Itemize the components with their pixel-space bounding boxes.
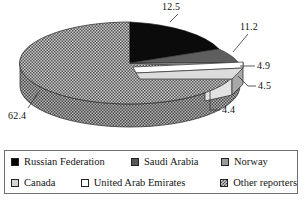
legend-label-uae: United Arab Emirates: [94, 177, 186, 188]
legend-item-russian-federation[interactable]: Russian Federation: [11, 156, 131, 167]
solid-black-swatch-icon: [11, 158, 19, 166]
legend-item-other-reporters[interactable]: Other reporters: [220, 177, 297, 188]
legend-label-saudi-arabia: Saudi Arabia: [144, 156, 199, 167]
legend-label-other-reporters: Other reporters: [233, 177, 297, 188]
value-label-canada: 4.5: [258, 80, 271, 91]
chart-legend: Russian Federation Saudi Arabia Norway C…: [4, 150, 298, 194]
white-swatch-icon: [81, 179, 89, 187]
legend-label-russian-federation: Russian Federation: [24, 156, 105, 167]
legend-item-saudi-arabia[interactable]: Saudi Arabia: [131, 156, 221, 167]
legend-item-norway[interactable]: Norway: [221, 156, 268, 167]
leader-line-saudi-arabia: [233, 34, 248, 52]
dotted-pattern-swatch-icon: [220, 179, 228, 187]
light-gray-swatch-icon: [11, 179, 19, 187]
value-label-russian-federation: 12.5: [162, 1, 180, 12]
pie-chart-graphic: [0, 0, 305, 148]
legend-item-uae[interactable]: United Arab Emirates: [81, 177, 220, 188]
leader-line-russian-federation: [170, 14, 178, 22]
dark-gray-swatch-icon: [131, 158, 139, 166]
legend-label-canada: Canada: [24, 177, 56, 188]
pie-chart-area: 12.5 11.2 4.9 4.5 4.4 62.4: [0, 0, 305, 148]
legend-label-norway: Norway: [234, 156, 268, 167]
legend-row-1: Russian Federation Saudi Arabia Norway: [5, 151, 297, 172]
value-label-uae: 4.4: [222, 104, 235, 115]
value-label-other-reporters: 62.4: [8, 110, 26, 121]
legend-item-canada[interactable]: Canada: [11, 177, 81, 188]
value-label-norway: 4.9: [257, 60, 270, 71]
legend-row-2: Canada United Arab Emirates Other report…: [5, 172, 297, 193]
mid-gray-swatch-icon: [221, 158, 229, 166]
value-label-saudi-arabia: 11.2: [240, 21, 258, 32]
